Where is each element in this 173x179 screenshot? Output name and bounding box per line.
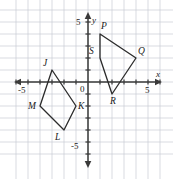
y-tick-neg5-label: -5 [71,142,79,151]
x-axis-label: x [156,70,160,79]
vertex-label-J: J [43,59,47,69]
x-tick-neg5-label: -5 [18,86,26,95]
y-axis-label: y [92,16,96,25]
vertex-label-R: R [110,97,116,107]
vertex-label-S: S [89,47,94,57]
axes [14,12,162,168]
x-tick-pos5-label: 5 [145,86,150,95]
vertex-label-P: P [101,22,107,32]
vertex-label-Q: Q [138,47,145,57]
y-tick-pos5-label: 5 [76,18,81,27]
vertex-label-M: M [28,102,36,112]
coordinate-plane-figure: x y 0 -5 5 5 -5 JKLMPQRS [0,0,173,179]
origin-label: 0 [80,85,85,94]
vertex-label-L: L [55,133,60,143]
vertex-label-K: K [78,102,84,112]
